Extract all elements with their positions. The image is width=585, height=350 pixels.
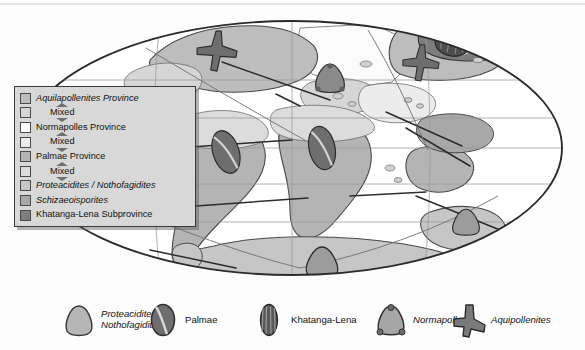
legend-row-proteacidites-nothofagidites[interactable]: Proteacidites / Nothofagidites: [20, 179, 191, 194]
region-schizaeoisporites: [417, 114, 494, 153]
legend-label-normapolles: Normapolles Province: [36, 123, 126, 132]
legend-swatch-normapolles-mixed: [20, 137, 31, 148]
khatanga-lena-grain-icon: [252, 300, 286, 340]
legend-swatch-khatanga-lena: [20, 210, 31, 221]
pollen-symbol-key: Proteacidites Nothofagidites Palmae Khat…: [0, 295, 585, 347]
legend-label-aquilapollenites-mixed: Mixed: [50, 108, 75, 117]
key-label-palmae: Palmae: [185, 315, 218, 326]
normapolles-grain-icon: [374, 300, 408, 340]
chevron-up-icon: [56, 103, 68, 107]
key-label-khatanga-lena: Khatanga-Lena: [291, 315, 357, 326]
legend-row-palmae[interactable]: Palmae Province: [20, 149, 191, 164]
key-item-aquipollenites[interactable]: Aquipollenites: [452, 299, 551, 341]
key-item-palmae[interactable]: Palmae: [146, 299, 218, 341]
legend-label-normapolles-mixed: Mixed: [50, 137, 75, 146]
legend-swatch-aquilapollenites-mixed: [20, 107, 31, 118]
legend-swatch-palmae: [20, 151, 31, 162]
chevron-up-icon: [56, 162, 68, 166]
legend-label-palmae-mixed: Mixed: [50, 167, 75, 176]
legend-swatch-proteacidites-nothofagidites: [20, 180, 31, 191]
legend-row-schizaeoisporites[interactable]: Schizaeoisporites: [20, 193, 191, 208]
legend-swatch-aquilapollenites: [20, 93, 31, 104]
key-item-khatanga-lena[interactable]: Khatanga-Lena: [252, 299, 357, 341]
legend-row-aquilapollenites[interactable]: Aquilapollenites Province: [20, 91, 191, 106]
aquipollenites-grain-icon: [452, 300, 486, 340]
legend-row-normapolles-mixed[interactable]: Mixed: [20, 135, 191, 150]
legend-label-khatanga-lena: Khatanga-Lena Subprovince: [36, 210, 152, 219]
key-label-aquipollenites: Aquipollenites: [491, 315, 551, 326]
legend-row-aquilapollenites-mixed[interactable]: Mixed: [20, 106, 191, 121]
legend-row-normapolles[interactable]: Normapolles Province: [20, 120, 191, 135]
palynofloral-province-figure: Aquilapollenites Province Mixed Normapol…: [0, 0, 585, 350]
legend-row-khatanga-lena[interactable]: Khatanga-Lena Subprovince: [20, 208, 191, 223]
legend-label-aquilapollenites: Aquilapollenites Province: [36, 94, 139, 103]
legend-label-palmae: Palmae Province: [36, 152, 105, 161]
legend-row-palmae-mixed[interactable]: Mixed: [20, 164, 191, 179]
proteacidites-grain-icon: [62, 300, 96, 340]
legend-label-schizaeoisporites: Schizaeoisporites: [36, 196, 108, 205]
legend-swatch-schizaeoisporites: [20, 195, 31, 206]
palmae-grain-icon: [146, 300, 180, 340]
province-legend: Aquilapollenites Province Mixed Normapol…: [14, 86, 196, 227]
legend-swatch-normapolles: [20, 122, 31, 133]
chevron-up-icon: [56, 132, 68, 136]
legend-swatch-palmae-mixed: [20, 166, 31, 177]
legend-label-proteacidites-nothofagidites: Proteacidites / Nothofagidites: [36, 181, 156, 190]
